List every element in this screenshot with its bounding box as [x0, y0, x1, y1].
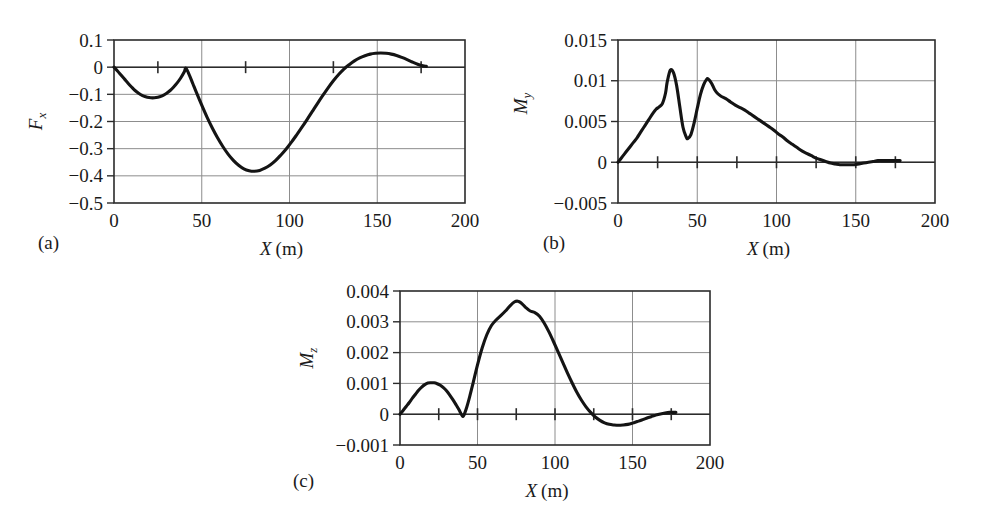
x-tick-label: 0 — [613, 210, 623, 231]
x-tick-label: 50 — [688, 210, 707, 231]
y-tick-label: 0.002 — [346, 342, 389, 363]
y-tick-label: 0.015 — [564, 30, 607, 51]
y-tick-label: −0.5 — [69, 193, 103, 214]
x-tick-label: 100 — [541, 452, 570, 473]
x-axis-title: X(m) — [746, 238, 790, 260]
data-curve — [400, 301, 676, 425]
y-tick-label: 0.005 — [564, 111, 607, 132]
data-curve — [114, 53, 426, 171]
y-axis-title: Fx — [25, 113, 49, 132]
x-tick-label: 0 — [109, 210, 119, 231]
y-axis: 0.10−0.1−0.2−0.3−0.4−0.5 — [69, 30, 114, 214]
y-tick-label: 0.004 — [346, 281, 389, 302]
x-tick-label: 200 — [696, 452, 725, 473]
y-axis: 0.0040.0030.0020.0010−0.001 — [336, 281, 400, 456]
chart-svg: 0.10−0.1−0.2−0.3−0.4−0.5050100150200X(m)… — [0, 20, 490, 260]
x-tick-label: 0 — [395, 452, 405, 473]
x-axis: 050100150200 — [613, 203, 949, 231]
x-tick-label: 150 — [618, 452, 647, 473]
chart-svg: 0.0150.010.0050−0.005050100150200X(m)My — [505, 20, 965, 260]
chart-panel-c: 0.0040.0030.0020.0010−0.001050100150200X… — [285, 271, 745, 511]
y-tick-label: −0.1 — [69, 84, 103, 105]
grid-lines — [114, 40, 465, 203]
x-tick-label: 150 — [842, 210, 871, 231]
x-axis-title: X(m) — [524, 480, 568, 502]
y-tick-label: 0 — [94, 57, 104, 78]
y-tick-label: −0.005 — [554, 193, 607, 214]
panel-caption-b: (b) — [543, 232, 565, 254]
chart-panel-b: 0.0150.010.0050−0.005050100150200X(m)My — [505, 20, 965, 260]
data-curve — [618, 69, 900, 164]
x-tick-label: 100 — [275, 210, 304, 231]
x-axis: 050100150200 — [395, 445, 724, 473]
y-tick-label: −0.3 — [69, 138, 103, 159]
figure-root: 0.10−0.1−0.2−0.3−0.4−0.5050100150200X(m)… — [0, 0, 981, 520]
x-axis-title: X(m) — [259, 238, 303, 260]
x-tick-label: 200 — [451, 210, 480, 231]
y-tick-label: 0.001 — [346, 373, 389, 394]
grid-lines — [618, 40, 935, 203]
x-tick-label: 50 — [192, 210, 211, 231]
panel-caption-c: (c) — [293, 470, 314, 492]
x-tick-label: 100 — [762, 210, 791, 231]
chart-panel-a: 0.10−0.1−0.2−0.3−0.4−0.5050100150200X(m)… — [0, 20, 490, 260]
y-tick-label: −0.2 — [69, 111, 103, 132]
y-axis-title: Mz — [296, 348, 320, 370]
y-tick-label: −0.4 — [69, 165, 104, 186]
y-axis: 0.0150.010.0050−0.005 — [554, 30, 618, 214]
chart-svg: 0.0040.0030.0020.0010−0.001050100150200X… — [285, 271, 745, 511]
y-axis-title: My — [510, 92, 534, 115]
x-tick-label: 200 — [921, 210, 950, 231]
x-tick-label: 150 — [363, 210, 392, 231]
grid-lines — [400, 291, 710, 445]
y-tick-label: 0 — [380, 404, 390, 425]
panel-caption-a: (a) — [38, 232, 59, 254]
zero-axis-line — [618, 156, 935, 168]
y-tick-label: 0.1 — [79, 30, 103, 51]
x-tick-label: 50 — [468, 452, 487, 473]
y-tick-label: −0.001 — [336, 435, 389, 456]
y-tick-label: 0.003 — [346, 311, 389, 332]
y-tick-label: 0 — [598, 152, 608, 173]
x-axis: 050100150200 — [109, 203, 479, 231]
y-tick-label: 0.01 — [574, 70, 607, 91]
